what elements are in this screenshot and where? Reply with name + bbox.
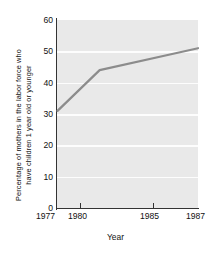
x-tick-label-1987: 1987 (186, 212, 205, 221)
x-tick-mark-1980 (80, 203, 81, 209)
x-tick-label-1985: 1985 (140, 212, 159, 221)
x-tick-label-1980: 1980 (68, 212, 87, 221)
x-tick-label-1977: 1977 (36, 212, 55, 221)
x-axis-title-text: Year (107, 232, 124, 242)
y-tick-label-40: 40 (33, 79, 53, 88)
x-axis-title: Year (0, 232, 219, 242)
y-tick-label-10: 10 (33, 173, 53, 182)
y-tick-label-60: 60 (33, 16, 53, 25)
y-tick-label-30: 30 (33, 110, 53, 119)
y-tick-label-20: 20 (33, 141, 53, 150)
y-tick-label-50: 50 (33, 47, 53, 56)
chart-figure: Percentage of mothers in the labor force… (0, 0, 219, 253)
x-tick-mark-1985 (153, 203, 154, 209)
